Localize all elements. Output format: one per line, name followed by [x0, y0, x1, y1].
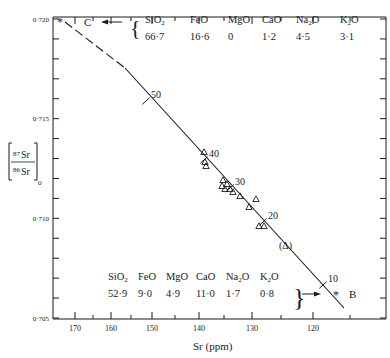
- y-label-num: Sr: [21, 149, 31, 160]
- oxide-name: K2O: [260, 271, 279, 284]
- y-label-num-sup: 87: [13, 150, 21, 158]
- brace-b: }: [293, 283, 305, 312]
- y-tick-label: 0·715: [33, 115, 50, 123]
- percent-label: 10: [328, 273, 338, 284]
- oxide-value: 1·2: [262, 31, 276, 42]
- oxide-name: SiO2: [108, 271, 128, 284]
- oxide-value: 0·8: [260, 288, 274, 299]
- oxide-name: Na2O: [226, 271, 250, 284]
- oxide-value: 11·0: [196, 288, 215, 299]
- brace-c: {: [130, 15, 141, 40]
- endmember-b: SiO2FeOMgOCaONa2OK2O52·99·04·911·01·70·8…: [108, 271, 356, 312]
- oxide-name: MgO: [166, 271, 189, 282]
- y-tick-label: 0·720: [33, 16, 50, 24]
- data-points: [201, 149, 267, 229]
- y-label-sub: 0: [38, 179, 42, 187]
- oxide-value: 4·9: [166, 288, 180, 299]
- oxide-value: 16·6: [190, 31, 209, 42]
- x-tick-label: 140: [193, 324, 205, 333]
- x-tick-label: 170: [69, 324, 81, 333]
- oxide-value: 3·1: [340, 31, 354, 42]
- triangle-marker: [253, 196, 259, 202]
- percent-label: 50: [151, 89, 161, 100]
- x-tick-label: 130: [246, 324, 258, 333]
- x-tick-label: 120: [307, 324, 319, 333]
- oxide-value: 0: [228, 31, 233, 42]
- star-marker-c: *: [57, 15, 63, 29]
- outlier-triangle-label: (Δ): [279, 240, 292, 252]
- endmember-b-composition: SiO2FeOMgOCaONa2OK2O52·99·04·911·01·70·8: [108, 271, 279, 299]
- endmember-c: * C { SiO2FeOMgOCaONa2OK2O66·716·601·24·…: [57, 14, 359, 42]
- oxide-name: FeO: [190, 14, 209, 25]
- y-tick-label: 0·705: [33, 315, 50, 323]
- y-tick-label: 0·710: [33, 215, 50, 223]
- endmember-c-label: C: [84, 16, 91, 28]
- y-axis-label: 87 Sr 86 Sr 0: [9, 143, 42, 187]
- oxide-name: Na2O: [296, 14, 320, 27]
- oxide-value: 1·7: [226, 288, 240, 299]
- oxide-name: CaO: [196, 271, 216, 282]
- endmember-b-label: B: [349, 288, 356, 300]
- x-tick-label: 150: [146, 324, 158, 333]
- percent-label: 30: [235, 176, 245, 187]
- percent-label: 20: [268, 210, 278, 221]
- y-label-den-sup: 86: [13, 166, 21, 174]
- x-axis-label: Sr (ppm): [193, 340, 233, 353]
- x-tick-label: 160: [105, 324, 117, 333]
- y-label-den: Sr: [21, 166, 31, 177]
- mixing-line-dashed: [65, 22, 125, 68]
- oxide-name: K2O: [340, 14, 359, 27]
- percent-tick: [142, 98, 149, 105]
- triangle-marker: [203, 163, 209, 169]
- star-marker-b: *: [333, 288, 339, 302]
- percent-label: 40: [209, 148, 219, 159]
- oxide-value: 9·0: [138, 288, 152, 299]
- oxide-name: SiO2: [145, 14, 165, 27]
- oxide-value: 4·5: [296, 31, 310, 42]
- oxide-name: CaO: [262, 14, 282, 25]
- oxide-value: 66·7: [145, 31, 164, 42]
- x-axis-ticks: 170160150140130120: [69, 17, 350, 333]
- oxide-name: FeO: [138, 271, 157, 282]
- oxide-name: MgO: [228, 14, 251, 25]
- oxide-value: 52·9: [108, 288, 127, 299]
- chart: 0·7200·7150·7100·705 170160150140130120 …: [0, 0, 390, 358]
